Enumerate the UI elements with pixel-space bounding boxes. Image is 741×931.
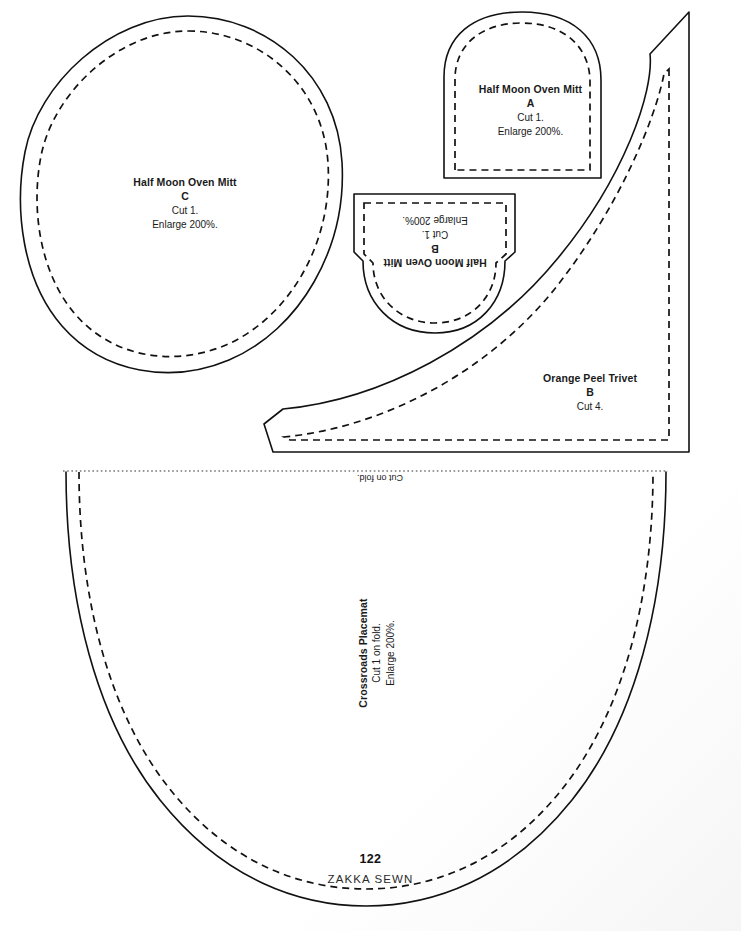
- orange-peel-trivet-piece-letter: B: [510, 385, 670, 399]
- oven-mitt-b-cut-note: Cut 1.: [355, 227, 515, 241]
- book-title: ZAKKA SEWN: [0, 873, 741, 885]
- crossroads-placemat-cut-note: Cut 1 on fold.: [370, 588, 384, 718]
- label-oven-mitt-c: Half Moon Oven Mitt C Cut 1. Enlarge 200…: [80, 175, 290, 232]
- label-oven-mitt-a: Half Moon Oven Mitt A Cut 1. Enlarge 200…: [443, 82, 618, 139]
- oven-mitt-a-title: Half Moon Oven Mitt: [443, 82, 618, 96]
- oven-mitt-a-enlarge-note: Enlarge 200%.: [443, 125, 618, 139]
- oven-mitt-b-enlarge-note: Enlarge 200%.: [355, 213, 515, 227]
- pattern-page: Half Moon Oven Mitt C Cut 1. Enlarge 200…: [0, 0, 741, 931]
- orange-peel-trivet-cut-note: Cut 4.: [510, 400, 670, 414]
- crossroads-placemat-enlarge-note: Enlarge 200%.: [384, 588, 398, 718]
- oven-mitt-c-enlarge-note: Enlarge 200%.: [80, 218, 290, 232]
- label-oven-mitt-b: Half Moon Oven Mitt B Cut 1. Enlarge 200…: [355, 213, 515, 270]
- label-cut-on-fold: Cut on fold.: [320, 472, 440, 484]
- oven-mitt-a-cut-note: Cut 1.: [443, 111, 618, 125]
- page-number: 122: [0, 852, 741, 866]
- cut-on-fold-text: Cut on fold.: [320, 472, 440, 484]
- oven-mitt-a-piece-letter: A: [443, 96, 618, 110]
- crossroads-placemat-title: Crossroads Placemat: [356, 588, 370, 718]
- orange-peel-trivet-title: Orange Peel Trivet: [510, 371, 670, 385]
- oven-mitt-c-piece-letter: C: [80, 189, 290, 203]
- label-orange-peel-trivet: Orange Peel Trivet B Cut 4.: [510, 371, 670, 414]
- oven-mitt-b-piece-letter: B: [355, 241, 515, 255]
- oven-mitt-b-title: Half Moon Oven Mitt: [355, 255, 515, 269]
- oven-mitt-c-title: Half Moon Oven Mitt: [80, 175, 290, 189]
- label-crossroads-placemat: Crossroads Placemat Cut 1 on fold. Enlar…: [356, 588, 398, 718]
- page-footer: 122 ZAKKA SEWN: [0, 852, 741, 885]
- pattern-diagram: [0, 0, 741, 931]
- oven-mitt-c-cut-note: Cut 1.: [80, 204, 290, 218]
